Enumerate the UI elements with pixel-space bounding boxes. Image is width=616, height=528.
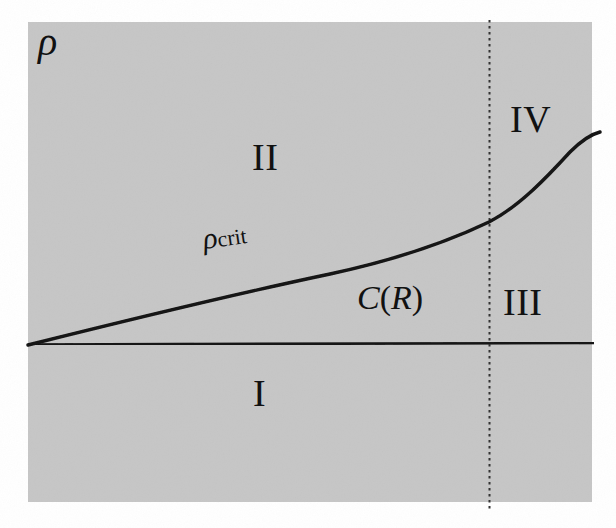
cr-base: C <box>357 279 380 316</box>
region-IV-label: IV <box>510 100 551 138</box>
cr-argument: R <box>391 279 412 316</box>
horizontal-axis-label: C(R) <box>357 281 423 315</box>
cr-open-paren: ( <box>380 279 391 316</box>
vertical-axis-label: ρ <box>38 22 57 62</box>
phase-diagram-canvas <box>0 0 616 528</box>
paper-grain <box>28 22 592 502</box>
region-III-label: III <box>503 283 542 321</box>
rho-crit-subscript: crit <box>216 223 249 252</box>
region-I-label: I <box>253 374 266 412</box>
horizontal-axis-line <box>28 343 594 345</box>
region-II-label: II <box>252 138 278 176</box>
cr-close-paren: ) <box>412 279 423 316</box>
phase-diagram-figure: ρ II IV III I ρcrit C(R) <box>0 0 616 528</box>
rho-crit-curve-label: ρcrit <box>201 218 249 254</box>
